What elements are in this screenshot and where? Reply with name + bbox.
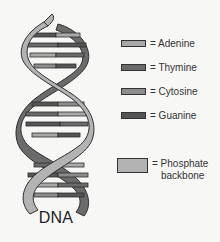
legend-label-adenine: = Adenine [150,38,195,49]
adenine-swatch-icon [121,40,146,47]
diagram-title: DNA [0,209,112,227]
legend-item-cytosine: = Cytosine [121,86,198,97]
legend-item-thymine: = Thymine [121,62,197,73]
legend-label-cytosine: = Cytosine [150,86,198,97]
dna-double-helix-illustration [0,0,110,242]
legend-item-guanine: = Guanine [121,110,196,121]
phosphate-backbone-swatch-icon [117,158,148,173]
legend-label-phosphate-line1: = Phosphate [152,158,208,169]
thymine-swatch-icon [121,64,146,71]
cytosine-swatch-icon [121,88,146,95]
guanine-swatch-icon [121,112,146,119]
legend-item-adenine: = Adenine [121,38,195,49]
legend-item-phosphate-backbone: = Phosphate backbone [117,158,208,182]
legend-label-thymine: = Thymine [150,62,197,73]
legend-label-phosphate-line2: backbone [152,170,208,182]
legend-label-phosphate-backbone: = Phosphate backbone [152,158,208,182]
legend-label-guanine: = Guanine [150,110,196,121]
